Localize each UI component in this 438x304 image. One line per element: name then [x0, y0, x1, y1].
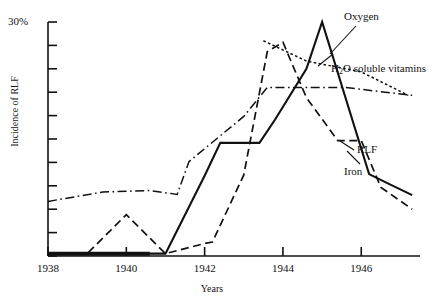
- y-axis-ticks: [48, 22, 57, 256]
- series-group: [48, 22, 412, 254]
- annotation-leaders: [318, 26, 360, 164]
- series-label-oxygen: Oxygen: [344, 10, 379, 22]
- series-label-iron: Iron: [344, 165, 362, 177]
- y-axis-title: Incidence of RLF: [9, 52, 20, 172]
- series-label-rlf: RLF: [357, 143, 377, 155]
- x-axis-tick-label: 1944: [272, 262, 294, 274]
- x-axis-tick-label: 1942: [194, 262, 216, 274]
- vitamins-label-post: O soluble vitamins: [343, 62, 426, 74]
- axes-group: [48, 22, 420, 256]
- series-label-h2o-soluble-vitamins: H2O soluble vitamins: [331, 62, 426, 76]
- x-axis-tick-label: 1940: [115, 262, 137, 274]
- vitamins-label-pre: H: [331, 62, 339, 74]
- x-axis-title: Years: [201, 283, 223, 294]
- x-axis-tick-label: 1946: [350, 262, 372, 274]
- y-axis-max-label: 30%: [8, 15, 28, 27]
- series-line-rlf: [48, 22, 412, 254]
- x-axis-tick-label: 1938: [37, 262, 59, 274]
- oxygen-leader-line: [330, 26, 356, 54]
- chart-figure: 30% Incidence of RLF Years 1938194019421…: [0, 0, 438, 304]
- rlf-leader-line: [340, 141, 354, 150]
